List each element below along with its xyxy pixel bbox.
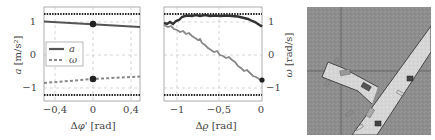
left-xlabel: Δφ' [rad] (70, 120, 115, 131)
svg-text:1: 1 (268, 16, 274, 27)
middle-xlabel: Δϱ [rad] (195, 120, 236, 131)
svg-text:0: 0 (268, 49, 274, 60)
svg-text:−1: −1 (22, 82, 37, 93)
svg-text:0: 0 (30, 49, 36, 60)
left-plot: a ω 1 0 −1 a [m/s²] −0,4 0 0,4 Δφ' [rad] (12, 7, 140, 131)
figure: a ω 1 0 −1 a [m/s²] −0,4 0 0,4 Δφ' [rad] (0, 0, 435, 140)
marker-omega (259, 77, 264, 82)
legend-omega: ω (69, 54, 77, 65)
marker-a (90, 21, 97, 28)
svg-text:0: 0 (258, 104, 264, 115)
map-panel (307, 7, 431, 135)
svg-text:−1: −1 (170, 104, 185, 115)
svg-text:−0,5: −0,5 (207, 104, 231, 115)
svg-text:−1: −1 (266, 82, 281, 93)
legend-a: a (69, 43, 75, 54)
marker-omega (90, 76, 97, 83)
svg-text:−0,4: −0,4 (43, 104, 67, 115)
legend: a ω (46, 42, 83, 66)
svg-text:0,4: 0,4 (123, 104, 139, 115)
middle-ylabel: ω [rad/s] (283, 33, 294, 78)
left-ylabel: a [m/s²] (12, 35, 23, 74)
middle-plot: 1 0 −1 ω [rad/s] −1 −0,5 0 Δϱ [rad] (164, 7, 294, 131)
svg-text:0: 0 (90, 104, 96, 115)
svg-text:1: 1 (30, 16, 36, 27)
vehicle (375, 121, 381, 126)
vehicle (407, 76, 413, 81)
